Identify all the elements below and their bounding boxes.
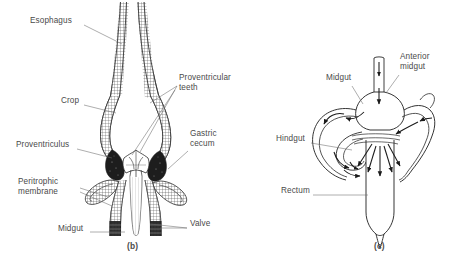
panel-c-artwork — [311, 57, 435, 248]
figure-container: Esophagus Crop Proventricular teeth Prov… — [0, 0, 459, 268]
anterior-midgut-sac — [356, 92, 405, 130]
label-proventricular-teeth: Proventricular teeth — [179, 73, 231, 93]
caption-panel-b: (b) — [127, 241, 138, 251]
label-valve: Valve — [190, 219, 210, 229]
esophagus-left-wall — [105, 0, 135, 100]
label-hindgut: Hindgut — [276, 134, 305, 144]
esophagus-right-wall — [132, 0, 164, 100]
label-rectum: Rectum — [281, 186, 310, 196]
label-midgut-b: Midgut — [58, 224, 83, 234]
label-proventriculus: Proventriculus — [16, 140, 69, 150]
label-anterior-midgut: Anterior midgut — [400, 52, 429, 72]
caption-panel-c: (c) — [374, 241, 385, 251]
label-midgut-c: Midgut — [326, 73, 351, 83]
proventricular-teeth — [123, 150, 149, 177]
label-peritrophic-membrane: Peritrophic membrane — [18, 177, 58, 197]
label-crop: Crop — [61, 96, 79, 106]
midgut-loop-right — [399, 94, 435, 182]
label-esophagus: Esophagus — [30, 16, 72, 26]
stomodaeal-valve-funnel — [130, 176, 142, 236]
label-gastric-cecum: Gastric cecum — [190, 129, 217, 149]
panel-b-artwork — [77, 0, 188, 236]
